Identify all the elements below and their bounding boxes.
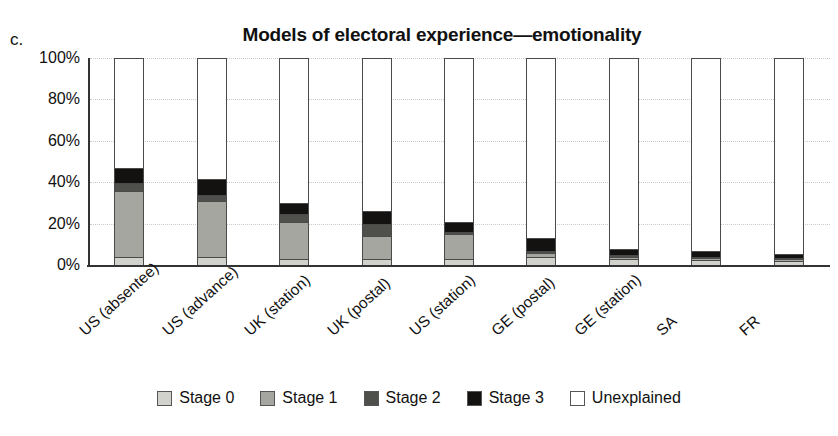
x-label-slot: UK (station) bbox=[255, 274, 333, 354]
bar-segment bbox=[363, 224, 391, 236]
x-label-slot: GE (station) bbox=[585, 274, 663, 354]
x-axis-label: GE (station) bbox=[571, 271, 645, 340]
bar-segment bbox=[363, 211, 391, 223]
bar-group bbox=[750, 58, 828, 265]
bar-segment bbox=[280, 203, 308, 213]
bar-segment bbox=[445, 234, 473, 259]
bar-segment bbox=[280, 214, 308, 222]
bar-segment bbox=[198, 59, 226, 179]
stacked-bar[interactable] bbox=[114, 58, 144, 265]
bar-segment bbox=[692, 260, 720, 265]
bar-segment bbox=[445, 222, 473, 232]
stacked-bar[interactable] bbox=[609, 58, 639, 265]
y-tick-label: 20% bbox=[48, 215, 80, 233]
x-label-slot: SA bbox=[667, 274, 745, 354]
bar-group bbox=[420, 58, 498, 265]
legend-label: Stage 1 bbox=[282, 389, 337, 407]
chart-title: Models of electoral experience—emotional… bbox=[0, 24, 838, 46]
x-label-slot: US (absentee) bbox=[90, 274, 168, 354]
bar-segment bbox=[445, 259, 473, 265]
legend-swatch-icon bbox=[157, 391, 172, 406]
chart-plot-wrapper: 0%20%40%60%80%100% bbox=[0, 58, 838, 273]
legend-swatch-icon bbox=[570, 391, 585, 406]
y-tick-label: 40% bbox=[48, 173, 80, 191]
bar-segment bbox=[198, 257, 226, 265]
stacked-bar[interactable] bbox=[691, 58, 721, 265]
bar-segment bbox=[198, 201, 226, 257]
bar-segment bbox=[115, 191, 143, 257]
legend-item[interactable]: Stage 1 bbox=[260, 389, 337, 407]
bar-segment bbox=[527, 257, 555, 265]
stacked-bar[interactable] bbox=[197, 58, 227, 265]
legend-label: Stage 0 bbox=[179, 389, 234, 407]
chart-legend: Stage 0Stage 1Stage 2Stage 3Unexplained bbox=[0, 389, 838, 407]
bar-segment bbox=[610, 59, 638, 249]
x-axis-label: US (station) bbox=[406, 271, 479, 339]
bar-group bbox=[173, 58, 251, 265]
legend-item[interactable]: Stage 3 bbox=[467, 389, 544, 407]
bar-group bbox=[338, 58, 416, 265]
bar-segment bbox=[280, 59, 308, 203]
bar-segment bbox=[527, 59, 555, 238]
bar-series-container bbox=[88, 58, 830, 265]
stacked-bar[interactable] bbox=[279, 58, 309, 265]
bar-segment bbox=[527, 238, 555, 250]
bar-segment bbox=[198, 179, 226, 195]
bar-segment bbox=[363, 236, 391, 259]
stacked-bar[interactable] bbox=[444, 58, 474, 265]
y-tick-label: 60% bbox=[48, 132, 80, 150]
legend-swatch-icon bbox=[467, 391, 482, 406]
x-axis-label: UK (station) bbox=[241, 271, 314, 339]
bar-group bbox=[667, 58, 745, 265]
legend-label: Unexplained bbox=[592, 389, 681, 407]
bar-segment bbox=[610, 259, 638, 265]
stacked-bar[interactable] bbox=[774, 58, 804, 265]
legend-item[interactable]: Stage 0 bbox=[157, 389, 234, 407]
bar-group bbox=[502, 58, 580, 265]
legend-item[interactable]: Unexplained bbox=[570, 389, 681, 407]
stacked-bar[interactable] bbox=[362, 58, 392, 265]
bar-group bbox=[90, 58, 168, 265]
y-axis-tick-labels: 0%20%40%60%80%100% bbox=[0, 58, 84, 267]
legend-swatch-icon bbox=[364, 391, 379, 406]
bar-segment bbox=[775, 59, 803, 254]
x-label-slot: UK (postal) bbox=[338, 274, 416, 354]
x-axis-label: GE (postal) bbox=[488, 274, 558, 340]
bar-segment bbox=[445, 59, 473, 222]
bar-segment bbox=[280, 259, 308, 265]
y-tick-label: 100% bbox=[39, 49, 80, 67]
bar-segment bbox=[115, 168, 143, 182]
legend-label: Stage 2 bbox=[386, 389, 441, 407]
bar-segment bbox=[115, 59, 143, 168]
bar-group bbox=[255, 58, 333, 265]
x-axis-label: UK (postal) bbox=[324, 274, 394, 339]
bar-segment bbox=[115, 183, 143, 191]
x-label-slot: US (advance) bbox=[173, 274, 251, 354]
x-label-slot: FR bbox=[750, 274, 828, 354]
bar-segment bbox=[363, 259, 391, 265]
x-axis-line bbox=[87, 265, 830, 267]
bar-segment bbox=[280, 222, 308, 259]
plot-area bbox=[88, 58, 830, 267]
x-label-slot: GE (postal) bbox=[502, 274, 580, 354]
legend-label: Stage 3 bbox=[489, 389, 544, 407]
y-tick-label: 80% bbox=[48, 90, 80, 108]
x-axis-category-labels: US (absentee)US (advance)UK (station)UK … bbox=[88, 274, 830, 354]
y-tick-label: 0% bbox=[57, 256, 80, 274]
bar-segment bbox=[115, 257, 143, 265]
legend-item[interactable]: Stage 2 bbox=[364, 389, 441, 407]
bar-segment bbox=[363, 59, 391, 211]
stacked-bar[interactable] bbox=[526, 58, 556, 265]
x-label-slot: US (station) bbox=[420, 274, 498, 354]
bar-segment bbox=[692, 59, 720, 251]
bar-segment bbox=[775, 261, 803, 265]
bar-group bbox=[585, 58, 663, 265]
x-axis-label: US (advance) bbox=[159, 263, 241, 340]
legend-swatch-icon bbox=[260, 391, 275, 406]
